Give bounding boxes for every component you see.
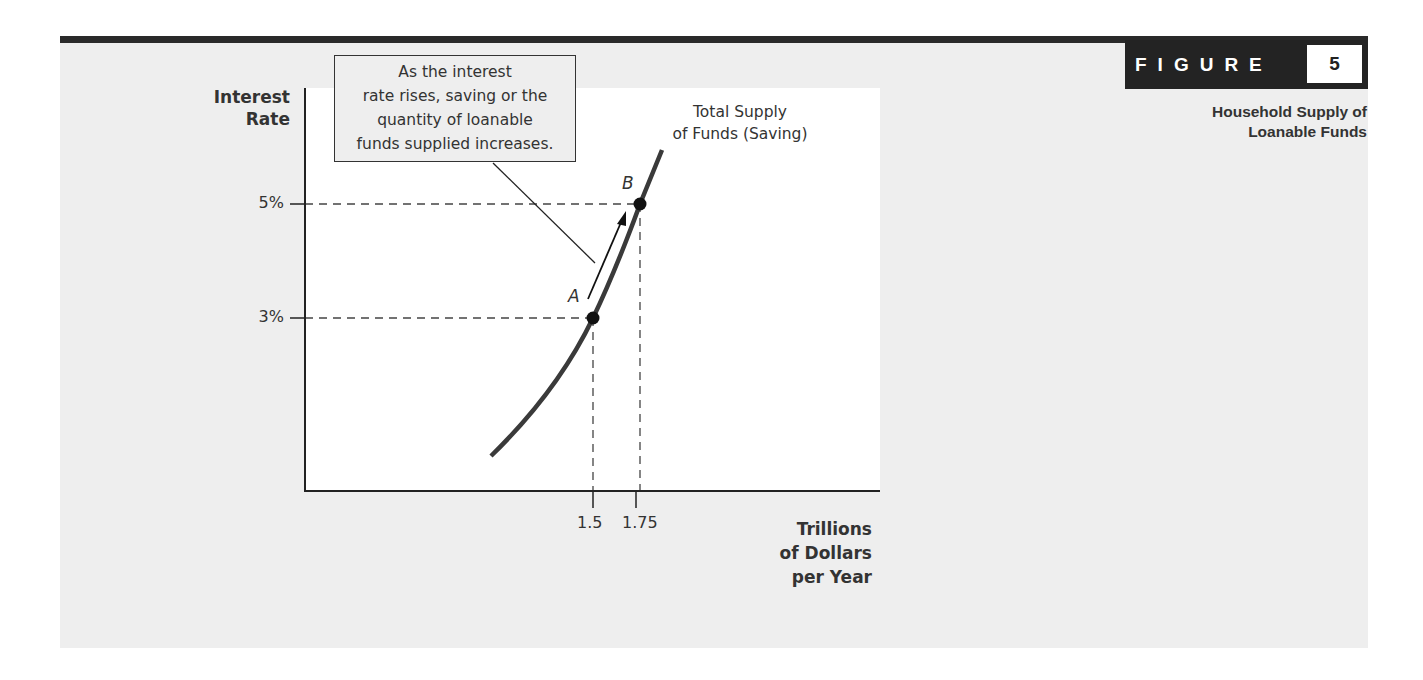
x-axis-label-line: per Year [760,565,872,589]
y-tick-label-5: 5% [234,193,284,212]
callout-leader-line [493,163,595,263]
x-axis-label-line: Trillions [760,517,872,541]
callout-box: As the interest rate rises, saving or th… [334,55,576,162]
point-b [634,198,647,211]
callout-line: rate rises, saving or the [335,84,575,108]
y-axis-label-line: Rate [200,108,290,130]
point-a [587,312,600,325]
arrowhead-icon [617,211,626,226]
callout-line: quantity of loanable [335,108,575,132]
x-tick-label-1-75: 1.75 [622,513,658,532]
curve-label: Total Supply of Funds (Saving) [660,101,820,145]
y-axis-label: Interest Rate [200,86,290,130]
callout-line: As the interest [335,60,575,84]
dashed-guides [305,204,640,491]
x-tick-label-1-5: 1.5 [577,513,602,532]
y-axis-label-line: Interest [200,86,290,108]
curve-label-line: of Funds (Saving) [660,123,820,145]
x-axis-label-line: of Dollars [760,541,872,565]
callout-line: funds supplied increases. [335,132,575,156]
y-tick-label-3: 3% [234,307,284,326]
point-a-label: A [568,286,580,306]
x-axis-label: Trillions of Dollars per Year [760,517,872,589]
curve-label-line: Total Supply [660,101,820,123]
point-b-label: B [622,173,634,193]
